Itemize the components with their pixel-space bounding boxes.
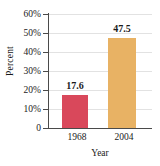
y-tick-label-30: 30% — [24, 66, 41, 76]
y-axis-title: Percent — [5, 31, 15, 91]
y-tick-mark-0 — [43, 128, 48, 129]
x-axis-title: Year — [48, 148, 152, 158]
y-tick-label-20: 20% — [24, 85, 41, 95]
y-tick-label-0: 0 — [36, 123, 41, 133]
y-tick-mark-20 — [43, 90, 48, 91]
y-tick-mark-30 — [43, 71, 48, 72]
y-tick-mark-10 — [43, 109, 48, 110]
gridline-60 — [48, 14, 152, 15]
gridline-40 — [48, 52, 152, 53]
plot-area: 17.6 47.5 — [48, 14, 152, 128]
gridline-30 — [48, 71, 152, 72]
x-tick-label-2004: 2004 — [103, 132, 145, 142]
y-tick-label-40: 40% — [24, 47, 41, 57]
bar-1968[interactable] — [62, 95, 88, 128]
bar-chart: Percent 17.6 47.5 60% 50% 40% 30% 20% 10… — [0, 0, 160, 166]
bar-value-2004: 47.5 — [102, 23, 142, 34]
y-tick-label-50: 50% — [24, 28, 41, 38]
bar-2004[interactable] — [108, 38, 136, 128]
y-tick-mark-50 — [43, 33, 48, 34]
y-tick-label-10: 10% — [24, 104, 41, 114]
y-tick-mark-40 — [43, 52, 48, 53]
bar-value-1968: 17.6 — [55, 80, 95, 91]
x-tick-label-1968: 1968 — [56, 132, 98, 142]
y-tick-label-60: 60% — [24, 9, 41, 19]
y-axis-spine — [48, 13, 49, 129]
y-tick-mark-60 — [43, 14, 48, 15]
x-axis-spine — [48, 128, 152, 129]
